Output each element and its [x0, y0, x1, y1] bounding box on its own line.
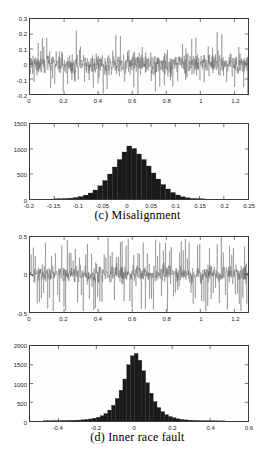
- ytick-label: 2000: [2, 343, 27, 349]
- caption-d: (d) Inner race fault: [0, 430, 275, 445]
- panel-d-signal: 0.5 0 -0.5 0 0.2 0.4 0.6 0.8 1 1.2: [0, 230, 275, 340]
- panel-c-hist-plot: [30, 124, 248, 199]
- panel-d-hist-axes: [29, 345, 249, 422]
- ytick-label: -0.1: [4, 78, 27, 84]
- ytick-label: 0: [2, 420, 27, 426]
- ytick-label: 500: [4, 172, 27, 178]
- ytick-label: 500: [2, 401, 27, 407]
- figure-root: 0.3 0.2 0.1 0 -0.1 -0.2 0 0.2 0.4 0.6 0.…: [0, 0, 275, 469]
- ytick-label: 0: [4, 272, 27, 278]
- xtick-label: 0: [27, 98, 30, 104]
- caption-c: (c) Misalignment: [0, 208, 275, 223]
- ytick-label: 0.2: [4, 31, 27, 37]
- panel-d-hist-plot: [30, 346, 248, 421]
- xtick-label: 0: [27, 316, 30, 322]
- ytick-label: 0.3: [4, 16, 27, 22]
- panel-c-signal-plot: [30, 19, 248, 94]
- panel-c-hist-axes: [29, 123, 249, 200]
- ytick-label: 1000: [2, 382, 27, 388]
- xtick-label: 0.8: [162, 98, 170, 104]
- xtick-label: 0.6: [128, 316, 136, 322]
- ytick-label: 1500: [4, 121, 27, 127]
- panel-d-signal-axes: [29, 236, 249, 313]
- xtick-label: 1.2: [231, 316, 239, 322]
- xtick-label: 0.8: [162, 316, 170, 322]
- xtick-label: 1: [199, 98, 202, 104]
- ytick-label: 0.1: [4, 47, 27, 53]
- panel-d-signal-plot: [30, 237, 248, 312]
- xtick-label: 0.4: [94, 98, 102, 104]
- ytick-label: 1500: [2, 362, 27, 368]
- xtick-label: 0.4: [94, 316, 102, 322]
- ytick-label: 0.5: [4, 234, 27, 240]
- ytick-label: 1000: [4, 147, 27, 153]
- ytick-label: 0: [4, 62, 27, 68]
- xtick-label: 1: [199, 316, 202, 322]
- xtick-label: 0.2: [59, 316, 67, 322]
- xtick-label: 0.2: [59, 98, 67, 104]
- ytick-label: -0.5: [4, 311, 27, 317]
- panel-c-signal-axes: [29, 18, 249, 95]
- panel-c-signal: 0.3 0.2 0.1 0 -0.1 -0.2 0 0.2 0.4 0.6 0.…: [0, 0, 275, 110]
- xtick-label: 0.6: [128, 98, 136, 104]
- ytick-label: -0.2: [4, 93, 27, 99]
- xtick-label: 1.2: [231, 98, 239, 104]
- panel-c-hist: 1500 1000 500 0 -0.2 -0.15 -0.1 -0.05 0 …: [0, 110, 275, 220]
